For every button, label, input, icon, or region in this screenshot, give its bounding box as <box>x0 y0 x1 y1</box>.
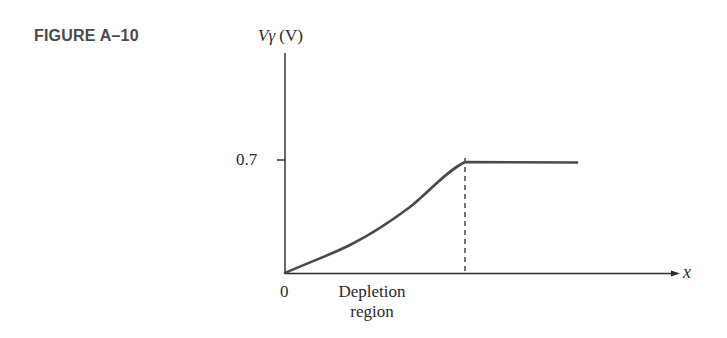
x-axis-label: x <box>683 262 691 283</box>
x-axis-arrow-icon <box>671 271 680 277</box>
origin-label: 0 <box>280 282 289 302</box>
v-gamma-curve <box>285 162 577 273</box>
depletion-region-label-line1: Depletion <box>324 282 420 302</box>
y-tick-label: 0.7 <box>236 150 257 170</box>
depletion-region-label: Depletion region <box>324 282 420 322</box>
depletion-region-label-line2: region <box>324 302 420 322</box>
